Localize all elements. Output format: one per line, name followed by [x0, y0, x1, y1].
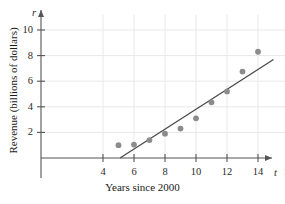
data-point-3 — [162, 131, 168, 137]
x-tick-label: 8 — [162, 167, 167, 178]
scatter-plot-figure: 46810121416246810 t r Years since 2000 R… — [0, 0, 285, 204]
data-point-1 — [131, 142, 137, 148]
data-point-6 — [209, 99, 215, 105]
data-point-2 — [147, 137, 153, 143]
data-point-0 — [116, 142, 122, 148]
y-tick-label: 10 — [23, 25, 34, 36]
y-tick-label: 4 — [28, 102, 33, 113]
x-axis-arrow-icon — [265, 155, 272, 161]
y-tick-label: 8 — [28, 50, 33, 61]
trend-line-segment — [120, 59, 273, 158]
y-axis-arrow-icon — [38, 10, 44, 17]
x-tick-label: 4 — [100, 167, 105, 178]
x-axis-variable-label: t — [274, 168, 277, 179]
horizontal-gridlines — [41, 30, 285, 132]
y-tick-label: 2 — [28, 127, 33, 138]
data-point-4 — [178, 126, 184, 132]
y-tick-label: 6 — [28, 76, 33, 87]
data-points — [116, 49, 261, 148]
plot-canvas — [0, 0, 285, 204]
x-tick-label: 16 — [284, 167, 285, 178]
x-tick-label: 12 — [222, 167, 233, 178]
data-point-9 — [255, 49, 261, 55]
data-point-8 — [240, 69, 246, 75]
y-axis-title: Revenue (billions of dollars) — [8, 16, 19, 166]
vertical-gridlines — [103, 15, 285, 158]
x-axis-title: Years since 2000 — [0, 182, 285, 193]
axes-group — [38, 10, 272, 178]
x-tick-label: 14 — [253, 167, 264, 178]
data-point-5 — [193, 115, 199, 121]
x-tick-label: 10 — [191, 167, 202, 178]
data-point-7 — [224, 89, 230, 95]
trend-line — [120, 59, 273, 158]
y-axis-variable-label: r — [32, 8, 36, 19]
x-tick-label: 6 — [131, 167, 136, 178]
